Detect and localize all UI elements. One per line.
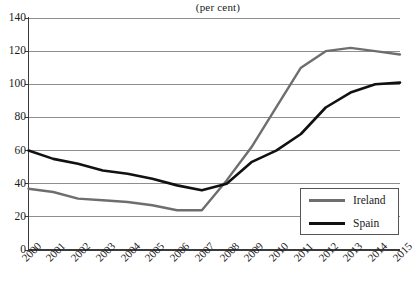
series-line-spain bbox=[29, 83, 401, 191]
legend-swatch-spain bbox=[309, 222, 345, 225]
y-axis-tick-label: 120 bbox=[0, 45, 26, 57]
y-axis-tick-label: 140 bbox=[0, 12, 26, 24]
legend-swatch-ireland bbox=[309, 199, 345, 202]
y-axis-tick-label: 100 bbox=[0, 78, 26, 90]
data-series bbox=[29, 48, 401, 210]
chart-legend: IrelandSpain bbox=[300, 188, 399, 235]
legend-label: Ireland bbox=[353, 195, 386, 207]
y-axis-tick-label: 40 bbox=[0, 178, 26, 190]
legend-label: Spain bbox=[353, 218, 379, 230]
y-axis-tick-label: 60 bbox=[0, 145, 26, 157]
legend-item-spain[interactable]: Spain bbox=[301, 212, 398, 235]
y-axis-tick-label: 20 bbox=[0, 211, 26, 223]
chart-container: (per cent) 140120100806040200 2000200120… bbox=[0, 0, 413, 293]
legend-item-ireland[interactable]: Ireland bbox=[301, 189, 398, 212]
y-axis-tick-label: 80 bbox=[0, 111, 26, 123]
